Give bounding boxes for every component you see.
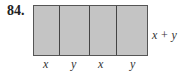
segment-2	[60, 6, 90, 55]
area-rectangle	[33, 5, 148, 56]
bottom-label-4: y	[130, 57, 135, 72]
segment-3	[90, 6, 117, 55]
segment-1	[34, 6, 60, 55]
side-label: x + y	[152, 28, 177, 43]
problem-number: 84.	[7, 3, 25, 19]
bottom-label-1: x	[43, 57, 48, 72]
bottom-label-3: x	[98, 57, 103, 72]
segment-4	[117, 6, 147, 55]
bottom-label-2: y	[71, 57, 76, 72]
